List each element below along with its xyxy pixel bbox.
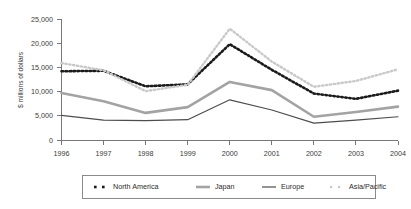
legend-marker-square-1 (338, 186, 340, 188)
y-tick-label-5: 25,000 (31, 15, 53, 24)
line-chart-figure: $ millions of dollars 05,00010,00015,000… (0, 0, 411, 209)
legend-label: Asia/Pacific (349, 182, 387, 191)
legend-label: North America (113, 182, 159, 191)
y-tick-label-4: 20,000 (31, 39, 53, 48)
x-tick-label-3: 1999 (180, 149, 196, 158)
x-tick-label-4: 2000 (222, 149, 238, 158)
legend-marker-square-1 (102, 186, 105, 189)
legend-label: Europe (281, 182, 304, 191)
chart-canvas: $ millions of dollars 05,00010,00015,000… (0, 0, 411, 209)
x-tick-label-1: 1997 (96, 149, 112, 158)
x-tick-label-8: 2004 (390, 149, 406, 158)
y-tick-label-0: 0 (49, 136, 53, 145)
y-axis-title: $ millions of dollars (17, 51, 24, 108)
y-tick-label-1: 5,000 (35, 111, 53, 120)
legend-label: Japan (215, 182, 235, 191)
legend-marker-square-0 (330, 186, 332, 188)
legend-marker-square-0 (94, 186, 97, 189)
x-tick-label-5: 2001 (264, 149, 280, 158)
x-tick-label-7: 2003 (348, 149, 364, 158)
x-tick-label-2: 1998 (138, 149, 154, 158)
y-tick-label-3: 15,000 (31, 63, 53, 72)
y-tick-label-2: 10,000 (31, 87, 53, 96)
x-tick-label-0: 1996 (54, 149, 70, 158)
chart-legend: North AmericaJapanEuropeAsia/Pacific (83, 176, 387, 199)
x-tick-label-6: 2002 (306, 149, 322, 158)
